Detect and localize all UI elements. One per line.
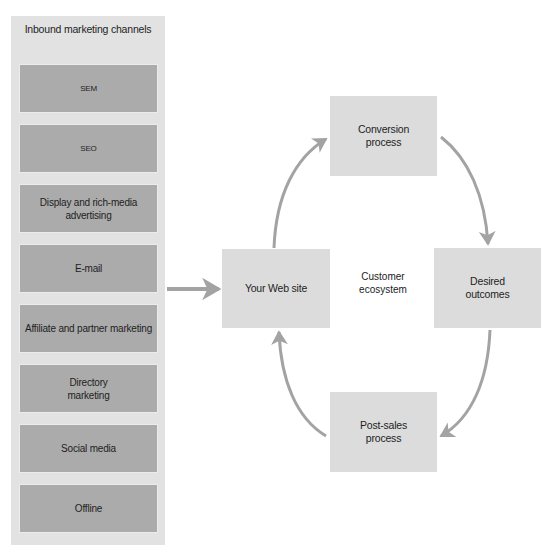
customer-ecosystem-label: Customer ecosystem	[348, 270, 418, 296]
arrow-outcomes-to-postsales	[441, 330, 490, 436]
arrow-conversion-to-outcomes	[441, 137, 488, 244]
node-desired-outcomes: Desired outcomes	[434, 248, 541, 328]
node-post-sales-process: Post-sales process	[330, 392, 437, 472]
arrow-website-to-conversion	[274, 139, 326, 248]
node-your-web-site: Your Web site	[222, 249, 330, 328]
node-conversion-process: Conversion process	[330, 96, 437, 176]
arrow-postsales-to-website	[279, 332, 326, 436]
